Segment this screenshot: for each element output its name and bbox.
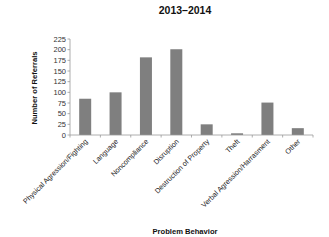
x-category-label: Theft [224, 137, 242, 155]
y-axis: 0255075100125150175200225 [53, 35, 70, 140]
y-tick-label: 25 [58, 120, 66, 129]
bar [79, 99, 91, 135]
bars [79, 49, 304, 135]
y-tick-label: 50 [58, 109, 66, 118]
y-tick-label: 200 [53, 45, 66, 54]
bar [140, 57, 152, 135]
x-axis-label: Problem Behavior [153, 227, 218, 236]
chart-title: 2013–2014 [159, 4, 212, 16]
y-tick-label: 225 [53, 35, 66, 44]
x-axis [70, 135, 313, 138]
y-axis-label: Number of Referrals [30, 51, 39, 124]
x-category-label: Destruction of Property [153, 137, 212, 196]
y-tick-label: 75 [58, 99, 66, 108]
bar [292, 128, 304, 135]
y-tick-label: 0 [62, 131, 66, 140]
y-tick-label: 100 [53, 88, 66, 97]
x-category-label: Other [283, 137, 303, 157]
bar-chart: 2013–2014 Number of Referrals 0255075100… [0, 0, 329, 237]
bar [170, 49, 182, 135]
y-tick-label: 125 [53, 77, 66, 86]
x-category-label: Disruption [151, 137, 180, 166]
y-tick-label: 150 [53, 67, 66, 76]
x-category-label: Physical Agression/Fighting [21, 137, 90, 206]
bar [201, 124, 213, 135]
bar [261, 103, 273, 135]
x-axis-category-labels: Physical Agression/FightingLanguageNonco… [21, 137, 303, 210]
x-category-label: Language [91, 137, 120, 166]
y-tick-label: 175 [53, 56, 66, 65]
bar [110, 92, 122, 135]
